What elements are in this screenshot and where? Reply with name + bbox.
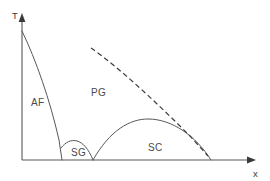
phase-diagram: T x AF PG SG SC bbox=[0, 0, 270, 181]
y-axis-arrow-icon bbox=[19, 13, 26, 22]
region-label-sg: SG bbox=[71, 147, 86, 158]
x-axis-label: x bbox=[253, 168, 258, 179]
af-boundary-curve bbox=[22, 31, 62, 160]
phase-diagram-canvas: T x AF PG SG SC bbox=[0, 0, 270, 181]
x-axis-arrow-icon bbox=[247, 157, 256, 164]
pseudogap-tstar-dashed-line bbox=[91, 48, 208, 156]
region-label-sc: SC bbox=[148, 142, 163, 153]
region-label-pg: PG bbox=[91, 87, 106, 98]
sc-dome-curve bbox=[93, 119, 211, 160]
region-label-af: AF bbox=[31, 97, 45, 108]
y-axis-label: T bbox=[12, 10, 18, 21]
